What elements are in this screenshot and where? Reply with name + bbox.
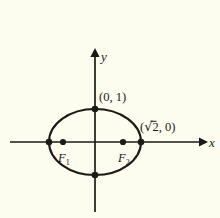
y-axis-arrow-icon xyxy=(90,48,99,57)
vertex-top-point xyxy=(92,106,99,113)
x-axis-label: x xyxy=(208,135,215,150)
focus-left-label-base: F xyxy=(57,151,66,165)
ellipse-figure: x y (0, 1) (√2, 0) F1 F2 xyxy=(0,0,220,218)
vertex-left-point xyxy=(46,139,53,146)
focus-left-point xyxy=(60,139,66,145)
svg-text:(√2, 0): (√2, 0) xyxy=(140,119,175,134)
figure-canvas: x y (0, 1) (√2, 0) F1 F2 xyxy=(0,0,220,218)
focus-right-label-base: F xyxy=(117,151,126,165)
focus-right-label-subscript: 2 xyxy=(126,158,130,167)
focus-left-label-subscript: 1 xyxy=(66,158,70,167)
vertex-top-label: (0, 1) xyxy=(99,90,126,104)
y-axis-label: y xyxy=(99,49,107,64)
vertex-bottom-point xyxy=(92,172,99,179)
x-axis-arrow-icon xyxy=(199,137,208,146)
vertex-right-label-close: , 0) xyxy=(159,120,176,134)
focus-right-label: F2 xyxy=(117,151,130,167)
vertex-right-point xyxy=(138,139,145,146)
vertex-right-label: (√2, 0) xyxy=(140,119,175,134)
focus-left-label: F1 xyxy=(57,151,70,167)
focus-right-point xyxy=(120,139,126,145)
